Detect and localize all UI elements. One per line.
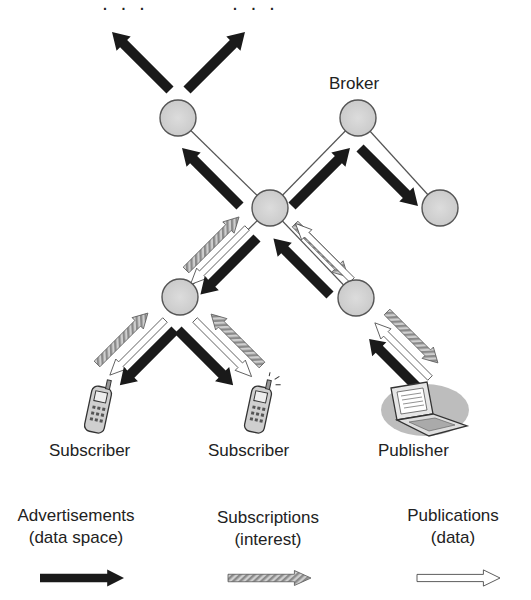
mobile-phone-icon	[83, 377, 114, 434]
broker-node-lower-left	[162, 279, 198, 315]
legend-title: Publications	[378, 505, 528, 527]
broker-node-top-right	[340, 100, 376, 136]
ellipsis-top-right: · · ·	[233, 1, 280, 17]
legend-item-advertisements: Advertisements (data space)	[1, 505, 151, 549]
legend-item-publications: Publications (data)	[378, 505, 528, 549]
ellipsis-top-left: · · ·	[103, 1, 150, 17]
publisher-label: Publisher	[378, 441, 449, 461]
legend-advertisement-arrow	[40, 570, 124, 587]
legend-title: Subscriptions	[193, 507, 343, 529]
laptop-icon	[381, 382, 469, 436]
subscriber-label-2: Subscriber	[208, 441, 289, 461]
advertisement-arrow-top-right	[180, 25, 252, 97]
broker-node-right	[422, 190, 458, 226]
advertisement-arrow-center-to-top-left	[175, 141, 247, 213]
legend-item-subscriptions: Subscriptions (interest)	[193, 507, 343, 551]
broker-node-top-left	[160, 100, 196, 136]
advertisement-arrow-top-left	[105, 25, 177, 97]
legend-subtitle: (data space)	[1, 527, 151, 549]
legend-subscription-arrow	[228, 571, 311, 586]
publication-arrow-lowerright-to-center	[290, 218, 357, 285]
broker-node-lower-right	[338, 280, 374, 316]
subscriber-label-1: Subscriber	[49, 441, 130, 461]
legend-title: Advertisements	[1, 505, 151, 527]
broker-node-center	[252, 190, 288, 226]
legend-publication-arrow	[417, 570, 500, 586]
legend-subtitle: (interest)	[193, 529, 343, 551]
mobile-phone-icon	[243, 369, 282, 435]
broker-label: Broker	[329, 74, 379, 94]
legend-subtitle: (data)	[378, 527, 528, 549]
advertisement-arrow-center-to-broker	[285, 141, 357, 213]
